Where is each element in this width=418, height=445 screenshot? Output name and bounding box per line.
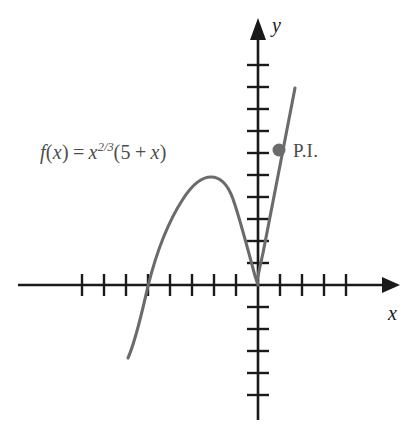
- plot-canvas: y x: [0, 0, 418, 445]
- inflection-point-marker: [273, 144, 286, 157]
- formula-factor-var: x: [150, 141, 159, 163]
- formula-factor-close: ): [160, 141, 167, 163]
- x-axis-arrowhead: [382, 277, 400, 293]
- formula-arg-close: ): [62, 141, 69, 163]
- formula-equals: =: [69, 141, 89, 163]
- formula-factor-const: 5: [121, 141, 131, 163]
- inflection-point-label: P.I.: [293, 140, 318, 162]
- x-axis-label: x: [387, 302, 397, 324]
- y-axis-arrowhead: [250, 18, 266, 40]
- function-formula: f(x)=x2/3(5+x): [40, 140, 167, 164]
- y-axis-label: y: [270, 14, 281, 37]
- formula-base-var: x: [89, 141, 98, 163]
- formula-factor-plus: +: [131, 141, 151, 163]
- formula-exponent: 2/3: [98, 140, 114, 154]
- function-curve: [128, 88, 295, 358]
- function-graph-figure: y x P.I. f(x)=x2/3(5+x): [0, 0, 418, 445]
- formula-f-var: x: [53, 141, 62, 163]
- formula-arg-open: (: [46, 141, 53, 163]
- formula-factor-open: (: [114, 141, 121, 163]
